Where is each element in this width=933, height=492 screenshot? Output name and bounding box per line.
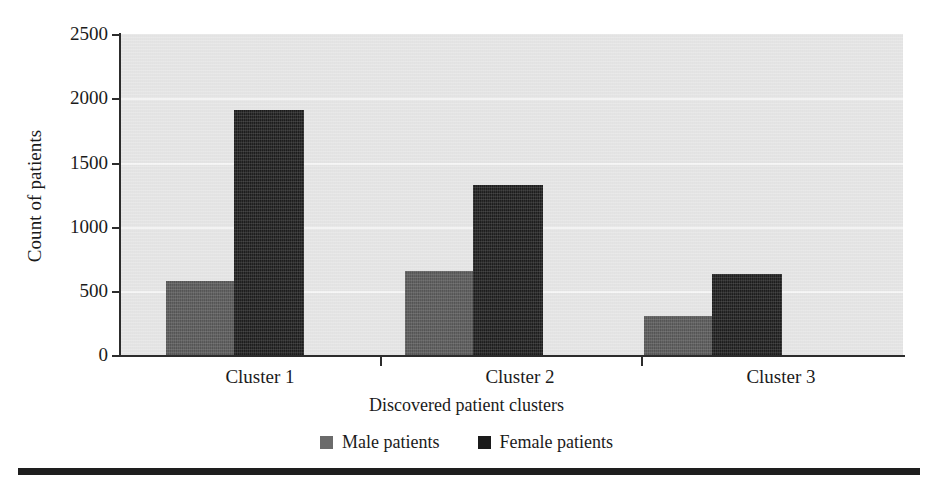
y-tick-label-group: 2500 2000 1500 1000 500 0 <box>36 0 108 492</box>
y-tick-label: 2500 <box>42 23 108 45</box>
bar-cluster2-female <box>473 185 543 356</box>
y-axis-line <box>119 33 121 357</box>
bar-texture <box>473 185 543 356</box>
bar-cluster1-female <box>234 110 304 356</box>
bar-texture <box>166 281 234 356</box>
x-axis-separator <box>380 357 382 366</box>
y-tick-label: 1000 <box>42 216 108 238</box>
x-axis-separator <box>641 357 643 366</box>
x-axis-category-label-2: Cluster 3 <box>661 366 901 388</box>
legend-item-female: Female patients <box>478 432 613 453</box>
bar-cluster1-male <box>166 281 234 356</box>
y-tick-label: 2000 <box>42 87 108 109</box>
x-axis-category-label-0: Cluster 1 <box>140 366 380 388</box>
y-tick-label: 1500 <box>42 152 108 174</box>
bar-chart-figure: Count of patients 2500 2000 1500 1000 50… <box>0 0 933 492</box>
bar-cluster2-male <box>405 271 473 356</box>
y-axis-title: Count of patients <box>14 0 36 100</box>
legend-label-female: Female patients <box>500 432 613 453</box>
bar-cluster3-female <box>712 274 782 356</box>
legend-label-male: Male patients <box>342 432 439 453</box>
plot-area <box>121 34 903 356</box>
legend-swatch-icon <box>478 436 491 449</box>
bar-texture <box>405 271 473 356</box>
legend-item-male: Male patients <box>320 432 439 453</box>
bar-texture <box>644 316 712 356</box>
x-axis-title: Discovered patient clusters <box>0 395 933 416</box>
bottom-horizontal-rule <box>18 468 920 475</box>
bar-cluster3-male <box>644 316 712 356</box>
bar-texture <box>712 274 782 356</box>
legend-swatch-icon <box>320 436 333 449</box>
bar-texture <box>234 110 304 356</box>
gridline <box>121 98 903 100</box>
y-tick-label: 500 <box>42 280 108 302</box>
x-axis-category-label-1: Cluster 2 <box>400 366 640 388</box>
y-tick-label: 0 <box>42 344 108 366</box>
x-axis-line <box>119 355 905 357</box>
chart-legend: Male patients Female patients <box>0 432 933 453</box>
